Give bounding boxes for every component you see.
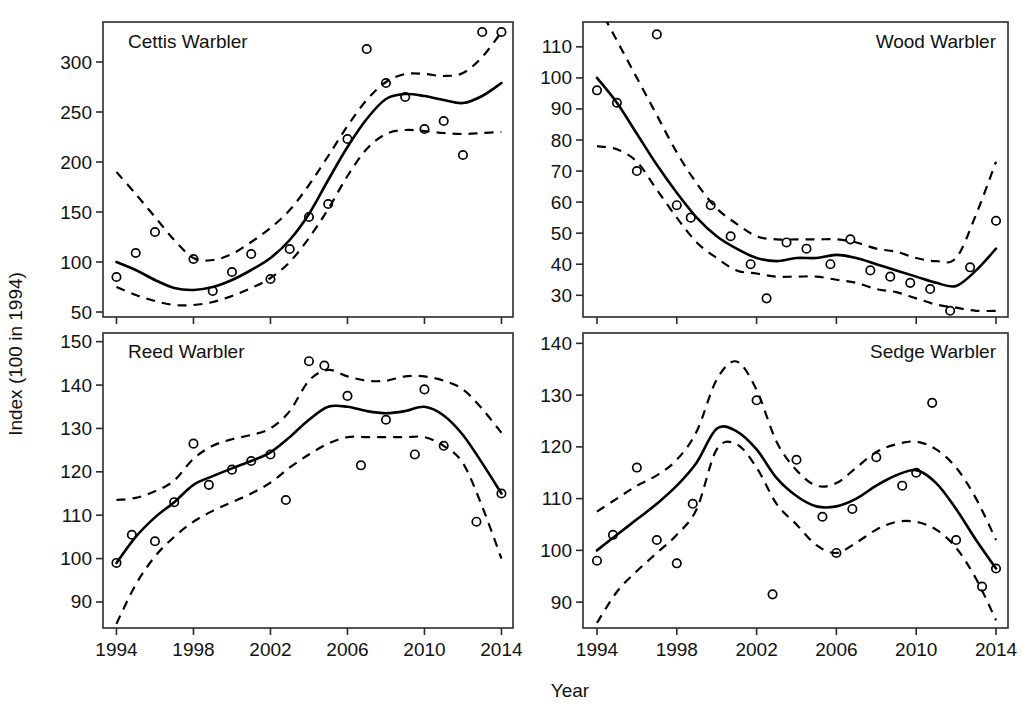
y-tick-label: 40 xyxy=(551,254,572,275)
x-tick-label: 2010 xyxy=(403,639,445,660)
data-point xyxy=(886,272,894,280)
panel-title: Wood Warbler xyxy=(876,31,997,52)
data-point xyxy=(762,294,770,302)
data-point xyxy=(946,307,954,315)
y-tick-label: 30 xyxy=(551,285,572,306)
data-point xyxy=(459,151,467,159)
data-point xyxy=(478,28,486,36)
data-point xyxy=(282,496,290,504)
data-point xyxy=(653,30,661,38)
data-point xyxy=(848,505,856,513)
panel-title: Cettis Warbler xyxy=(128,31,248,52)
x-tick-label: 2010 xyxy=(895,639,937,660)
data-point xyxy=(818,513,826,521)
data-point xyxy=(906,279,914,287)
data-point xyxy=(305,357,313,365)
y-tick-label: 50 xyxy=(551,223,572,244)
x-tick-label: 2002 xyxy=(249,639,291,660)
y-tick-label: 140 xyxy=(540,333,572,354)
data-point xyxy=(151,537,159,545)
x-axis-title: Year xyxy=(551,680,590,701)
data-point xyxy=(866,266,874,274)
data-point xyxy=(792,456,800,464)
data-point xyxy=(689,500,697,508)
data-point xyxy=(673,559,681,567)
data-point xyxy=(826,260,834,268)
y-tick-label: 100 xyxy=(540,67,572,88)
y-axis-title: Index (100 in 1994) xyxy=(5,272,26,436)
x-tick-label: 2014 xyxy=(480,639,523,660)
y-tick-label: 120 xyxy=(540,436,572,457)
x-tick-label: 2006 xyxy=(326,639,368,660)
data-point xyxy=(343,392,351,400)
y-tick-label: 90 xyxy=(551,592,572,613)
x-tick-label: 1998 xyxy=(656,639,698,660)
y-tick-label: 130 xyxy=(60,418,92,439)
data-point xyxy=(363,45,371,53)
data-point xyxy=(357,461,365,469)
y-tick-label: 150 xyxy=(60,202,92,223)
data-point xyxy=(132,249,140,257)
y-tick-label: 100 xyxy=(60,548,92,569)
y-tick-label: 110 xyxy=(542,36,572,57)
y-tick-label: 70 xyxy=(551,161,572,182)
x-tick-label: 1994 xyxy=(95,639,138,660)
y-tick-label: 90 xyxy=(551,98,572,119)
y-tick-label: 90 xyxy=(71,591,92,612)
data-point xyxy=(205,481,213,489)
data-point xyxy=(768,590,776,598)
data-point xyxy=(247,250,255,258)
y-tick-label: 100 xyxy=(540,540,572,561)
y-tick-label: 110 xyxy=(62,505,92,526)
x-tick-label: 2014 xyxy=(975,639,1018,660)
data-point xyxy=(782,238,790,246)
data-point xyxy=(593,557,601,565)
data-point xyxy=(966,263,974,271)
data-point xyxy=(898,481,906,489)
data-point xyxy=(151,228,159,236)
data-point xyxy=(593,86,601,94)
y-tick-label: 300 xyxy=(60,52,92,73)
data-point xyxy=(746,260,754,268)
data-point xyxy=(633,463,641,471)
x-tick-label: 1998 xyxy=(172,639,214,660)
data-point xyxy=(992,217,1000,225)
x-tick-label: 1994 xyxy=(576,639,619,660)
data-point xyxy=(189,439,197,447)
y-tick-label: 200 xyxy=(60,152,92,173)
y-tick-label: 60 xyxy=(551,192,572,213)
data-point xyxy=(112,273,120,281)
y-tick-label: 140 xyxy=(60,375,92,396)
data-point xyxy=(472,518,480,526)
data-point xyxy=(633,167,641,175)
data-point xyxy=(653,536,661,544)
data-point xyxy=(952,536,960,544)
data-point xyxy=(382,416,390,424)
figure-panel-grid: 50100150200250300Cettis Warbler304050607… xyxy=(0,0,1036,708)
panel-title: Sedge Warbler xyxy=(870,341,997,362)
data-point xyxy=(420,385,428,393)
y-tick-label: 120 xyxy=(60,461,92,482)
x-tick-label: 2006 xyxy=(815,639,857,660)
data-point xyxy=(673,201,681,209)
data-point xyxy=(228,268,236,276)
y-tick-label: 50 xyxy=(71,302,92,323)
data-point xyxy=(320,361,328,369)
data-point xyxy=(926,285,934,293)
data-point xyxy=(928,399,936,407)
data-point xyxy=(440,117,448,125)
data-point xyxy=(286,245,294,253)
y-tick-label: 80 xyxy=(551,130,572,151)
panel-title: Reed Warbler xyxy=(128,341,245,362)
x-tick-label: 2002 xyxy=(735,639,777,660)
y-tick-label: 110 xyxy=(542,488,572,509)
four-panel-warbler-trend-chart: 50100150200250300Cettis Warbler304050607… xyxy=(0,0,1036,708)
data-point xyxy=(802,244,810,252)
y-tick-label: 150 xyxy=(60,331,92,352)
y-tick-label: 130 xyxy=(540,385,572,406)
data-point xyxy=(726,232,734,240)
y-tick-label: 250 xyxy=(60,102,92,123)
data-point xyxy=(411,450,419,458)
y-tick-label: 100 xyxy=(60,252,92,273)
